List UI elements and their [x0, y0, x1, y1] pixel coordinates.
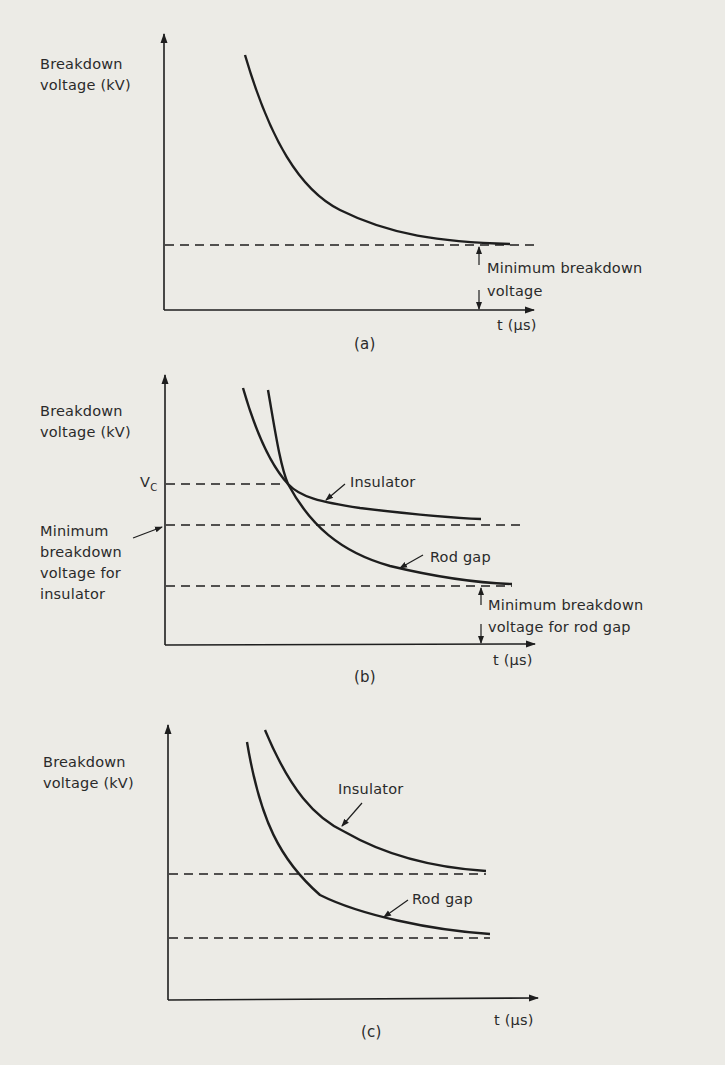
vc-subscript: C	[150, 482, 157, 493]
insulator-curve-label: Insulator	[350, 473, 415, 491]
y-axis-label-line1: Breakdown	[40, 55, 123, 73]
minimum-annotation-line1: Minimum breakdown	[487, 259, 642, 277]
breakdown-curve	[245, 55, 510, 244]
rod-gap-curve-label: Rod gap	[412, 890, 473, 908]
insulator-minimum-annotation-line3: voltage for	[40, 564, 121, 582]
x-axis	[165, 644, 535, 645]
y-axis-label-line1: Breakdown	[40, 402, 123, 420]
insulator-curve	[268, 390, 481, 519]
insulator-leader-arrow	[342, 803, 362, 826]
insulator-minimum-annotation-line2: breakdown	[40, 543, 122, 561]
rod-gap-leader-arrow	[384, 900, 408, 917]
x-axis-label: t (µs)	[497, 316, 537, 334]
insulator-minimum-annotation-line4: insulator	[40, 585, 105, 603]
breakdown-voltage-figure	[0, 0, 725, 1065]
insulator-curve-label: Insulator	[338, 780, 403, 798]
x-axis-label: t (µs)	[493, 651, 533, 669]
insulator-leader-arrow	[326, 484, 345, 500]
y-axis-label-line1: Breakdown	[43, 753, 126, 771]
y-axis-label-line2: voltage (kV)	[43, 774, 134, 792]
panel-a	[164, 34, 535, 310]
rod-gap-minimum-annotation-line1: Minimum breakdown	[488, 596, 643, 614]
y-axis-label-line2: voltage (kV)	[40, 423, 131, 441]
panel-b	[133, 375, 535, 645]
rod-gap-curve-label: Rod gap	[430, 548, 491, 566]
x-axis	[168, 998, 538, 1000]
insulator-curve	[265, 730, 486, 871]
minimum-annotation-line2: voltage	[487, 282, 543, 300]
panel-caption: (b)	[354, 668, 376, 686]
panel-c	[168, 725, 538, 1000]
figure-stage: Breakdown voltage (kV) Minimum breakdown…	[0, 0, 725, 1065]
x-axis-label: t (µs)	[494, 1011, 534, 1029]
vc-label: VC	[140, 473, 157, 497]
y-axis-label-line2: voltage (kV)	[40, 76, 131, 94]
insulator-minimum-annotation-line1: Minimum	[40, 522, 109, 540]
rod-gap-leader-arrow	[400, 555, 423, 568]
vc-symbol: V	[140, 474, 150, 490]
rod-gap-minimum-annotation-line2: voltage for rod gap	[488, 618, 631, 636]
panel-caption: (c)	[361, 1023, 382, 1041]
insulator-minimum-leader-arrow	[133, 527, 162, 538]
panel-caption: (a)	[354, 335, 376, 353]
